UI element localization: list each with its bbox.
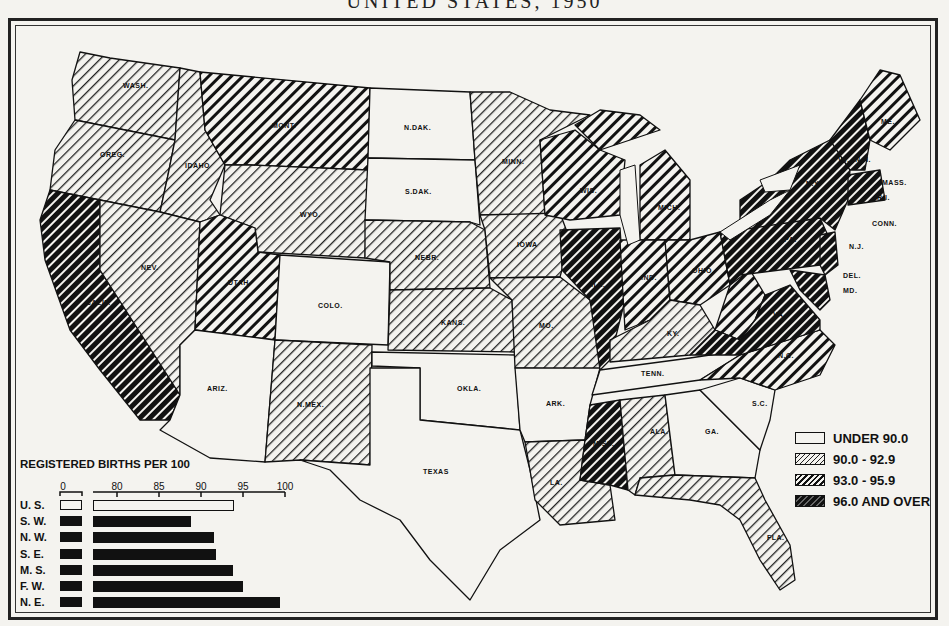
label-vt: VT. xyxy=(838,156,850,163)
label-nmex: N.MEX. xyxy=(297,401,324,408)
state-mich xyxy=(640,150,690,240)
label-ind: IND. xyxy=(641,274,657,281)
label-fla: FLA. xyxy=(767,534,785,541)
label-sdak: S.DAK. xyxy=(405,188,432,195)
bar-row-label: U. S. xyxy=(20,499,60,511)
state-mont xyxy=(200,72,370,170)
label-ri: R.I. xyxy=(877,194,890,201)
bar-stub xyxy=(60,565,82,575)
label-md: MD. xyxy=(843,287,857,294)
label-me: ME. xyxy=(881,118,895,125)
bar-stub xyxy=(60,581,82,591)
label-ariz: ARIZ. xyxy=(207,385,228,392)
label-nc: N.C. xyxy=(778,352,794,359)
label-va: VA. xyxy=(773,311,786,318)
state-me xyxy=(860,70,920,150)
bar xyxy=(93,516,191,527)
label-tenn: TENN. xyxy=(641,370,665,377)
bar-row-label: F. W. xyxy=(20,580,60,592)
legend-item-96-over: 96.0 AND OVER xyxy=(795,491,930,511)
label-mich: MICH. xyxy=(658,204,680,211)
state-colo xyxy=(275,255,390,345)
label-idaho: IDAHO xyxy=(185,162,210,169)
bar-stub xyxy=(60,597,82,607)
label-calif: CALIF. xyxy=(86,299,111,306)
bar-stub xyxy=(60,532,82,542)
bar xyxy=(93,500,234,511)
state-nj xyxy=(820,232,838,275)
label-mont: MONT. xyxy=(272,122,296,129)
label-ky: KY. xyxy=(667,330,679,337)
label-pa: PA. xyxy=(784,236,797,243)
bar-row-label: M. S. xyxy=(20,564,60,576)
state-fla xyxy=(635,475,795,590)
bar xyxy=(93,532,214,543)
label-kans: KANS. xyxy=(441,319,465,326)
bar xyxy=(93,597,280,608)
label-ndak: N.DAK. xyxy=(404,124,431,131)
label-mass: MASS. xyxy=(882,179,907,186)
bar xyxy=(93,581,243,592)
label-wis: WIS. xyxy=(580,187,597,194)
label-la: LA. xyxy=(550,479,563,486)
legend-item-under-90: UNDER 90.0 xyxy=(795,428,930,448)
bar-stub xyxy=(60,516,82,526)
label-ala: ALA. xyxy=(650,428,668,435)
legend-item-93-95: 93.0 - 95.9 xyxy=(795,470,930,490)
label-ny: N.Y. xyxy=(806,180,821,187)
label-miss: MISS. xyxy=(593,440,615,447)
label-sc: S.C. xyxy=(752,400,768,407)
legend-swatch-blank xyxy=(795,432,825,444)
label-nh: N.H. xyxy=(855,156,871,163)
label-oreg: OREG. xyxy=(100,151,125,158)
label-wash: WASH. xyxy=(123,82,148,89)
bar xyxy=(93,565,233,576)
label-colo: COLO. xyxy=(318,302,343,309)
label-ark: ARK. xyxy=(546,400,565,407)
lake-michigan xyxy=(620,165,640,245)
legend-swatch-light-hatch xyxy=(795,453,825,465)
bar-stub xyxy=(60,549,82,559)
label-texas: TEXAS xyxy=(423,468,449,475)
label-nebr: NEBR. xyxy=(415,254,439,261)
label-iowa: IOWA xyxy=(517,241,538,248)
bar-row-label: N. E. xyxy=(20,596,60,608)
label-nev: NEV. xyxy=(141,264,159,271)
bar-row-label: N. W. xyxy=(20,531,60,543)
label-wyo: WYO. xyxy=(300,211,321,218)
label-okla: OKLA. xyxy=(457,385,481,392)
label-minn: MINN. xyxy=(502,158,524,165)
label-mo: MO. xyxy=(539,322,554,329)
label-ga: GA. xyxy=(705,428,719,435)
bar-row-label: S. E. xyxy=(20,548,60,560)
label-conn: CONN. xyxy=(872,220,897,227)
bar-stub xyxy=(60,500,82,510)
label-ill: ILL. xyxy=(591,281,605,288)
bar-row-label: S. W. xyxy=(20,515,60,527)
label-utah: UTAH xyxy=(228,279,249,286)
legend-swatch-dark-hatch xyxy=(795,495,825,507)
births-bar-chart: REGISTERED BIRTHS PER 100 0 80 85 90 95 … xyxy=(20,454,300,614)
legend-item-90-92: 90.0 - 92.9 xyxy=(795,449,930,469)
label-nj: N.J. xyxy=(849,243,864,250)
map-legend: UNDER 90.0 90.0 - 92.9 93.0 - 95.9 96.0 … xyxy=(795,428,930,512)
label-del: DEL. xyxy=(843,272,861,279)
bar xyxy=(93,549,216,560)
label-ohio: OHIO xyxy=(692,267,712,274)
legend-swatch-medium-hatch xyxy=(795,474,825,486)
